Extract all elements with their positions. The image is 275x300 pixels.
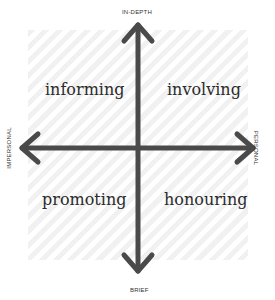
axes	[0, 0, 275, 300]
quadrant-promoting: promoting	[42, 190, 126, 209]
quadrant-involving: involving	[167, 80, 241, 99]
axis-label-right: PERSONAL	[253, 131, 259, 165]
quadrant-informing: informing	[45, 80, 124, 99]
axis-label-left: IMPERSONAL	[6, 127, 12, 168]
quadrant-honouring: honouring	[164, 190, 248, 209]
quadrant-diagram: IN-DEPTH BRIEF IMPERSONAL PERSONAL infor…	[0, 0, 275, 300]
axis-label-bottom: BRIEF	[130, 287, 149, 293]
axis-label-top: IN-DEPTH	[122, 9, 152, 15]
